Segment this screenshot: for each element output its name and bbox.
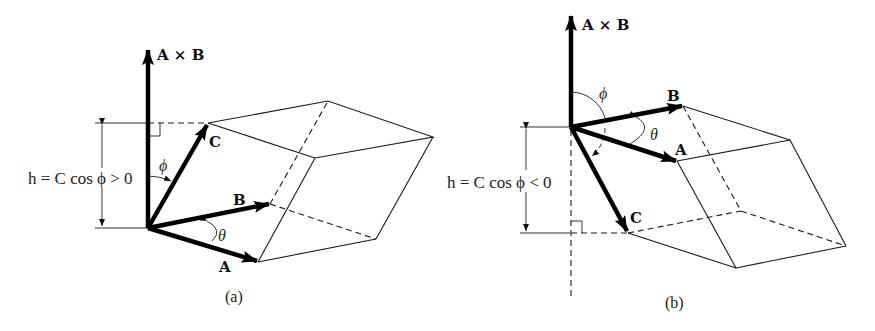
phi-label-a: ϕ xyxy=(159,157,167,175)
right-angle-icon xyxy=(571,221,582,233)
vector-b-arrow-b xyxy=(571,106,682,127)
vector-b-arrow-a xyxy=(148,204,269,228)
parallelepiped-a xyxy=(208,101,433,262)
vector-a-label-b: A xyxy=(674,141,687,159)
vector-c-label-b: C xyxy=(630,209,642,227)
theta-arc-a xyxy=(207,221,217,241)
theta-label-b: θ xyxy=(650,126,658,143)
theta-label-a: θ xyxy=(218,227,226,244)
height-equation-a: h = C cos ϕ > 0 xyxy=(28,169,133,188)
panel-a: A × B C B A ϕ θ h = C cos ϕ > 0 (a) xyxy=(26,46,433,306)
phi-arc-a xyxy=(148,176,171,181)
panel-b: A × B B A C ϕ θ h = C cos ϕ < 0 (b) xyxy=(446,16,846,312)
caption-b: (b) xyxy=(665,294,684,312)
vector-a-label-a: A xyxy=(218,258,231,276)
vector-b-label-a: B xyxy=(233,191,246,209)
phi-label-b: ϕ xyxy=(599,85,607,103)
triple-product-figure: A × B C B A ϕ θ h = C cos ϕ > 0 (a) xyxy=(0,0,875,331)
vector-c-label-a: C xyxy=(209,133,221,151)
parallelepiped-b xyxy=(628,106,846,268)
cross-product-label-b: A × B xyxy=(581,16,629,34)
vector-b-label-b: B xyxy=(667,87,680,105)
vector-a-arrow-a xyxy=(148,228,257,261)
height-equation-b: h = C cos ϕ < 0 xyxy=(447,173,552,192)
theta-arc-b xyxy=(630,117,645,144)
cross-product-label-a: A × B xyxy=(156,46,204,64)
caption-a: (a) xyxy=(225,288,243,306)
